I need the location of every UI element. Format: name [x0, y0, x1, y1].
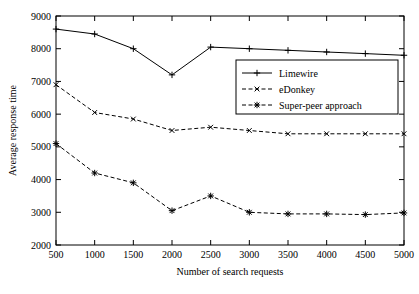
legend-label: Super-peer approach — [279, 100, 362, 111]
x-axis-tick-label: 500 — [49, 249, 64, 260]
x-axis-tick-label: 1000 — [85, 249, 105, 260]
plot-frame — [56, 16, 404, 245]
y-axis-tick-label: 7000 — [31, 76, 51, 87]
y-axis-tick-label: 8000 — [31, 43, 51, 54]
y-axis-tick-label: 3000 — [31, 207, 51, 218]
x-axis-tick-label: 3000 — [239, 249, 259, 260]
y-axis-tick-label: 5000 — [31, 141, 51, 152]
legend-label: eDonkey — [279, 84, 315, 95]
x-axis-tick-label: 4500 — [355, 249, 375, 260]
y-axis-tick-label: 9000 — [31, 11, 51, 22]
series-3 — [53, 140, 407, 217]
x-axis-tick-label: 3500 — [278, 249, 298, 260]
x-axis-tick-label: 1500 — [123, 249, 143, 260]
y-axis-tick-label: 4000 — [31, 174, 51, 185]
chart-container: 2000300040005000600070008000900050010001… — [0, 0, 419, 294]
x-axis-tick-label: 2000 — [162, 249, 182, 260]
x-axis-tick-label: 2500 — [201, 249, 221, 260]
x-axis-title: Number of search requests — [177, 266, 284, 277]
legend-label: Limewire — [279, 68, 318, 79]
y-axis-tick-label: 6000 — [31, 109, 51, 120]
series-line — [56, 144, 404, 215]
x-axis-tick-label: 4000 — [317, 249, 337, 260]
x-axis-tick-label: 5000 — [394, 249, 414, 260]
y-axis-title: Average response time — [7, 84, 18, 175]
line-chart: 2000300040005000600070008000900050010001… — [0, 0, 419, 294]
